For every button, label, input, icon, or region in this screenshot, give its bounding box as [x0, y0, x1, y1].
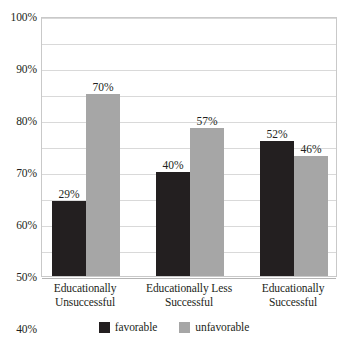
bar-unfavorable — [294, 156, 328, 276]
category-label-line: Educationally — [54, 282, 117, 296]
category-label: Educationally LessSuccessful — [146, 282, 232, 309]
bar-value-label: 29% — [59, 189, 80, 201]
category-label: EducationallySuccessful — [262, 282, 325, 309]
legend: favorableunfavorable — [0, 322, 348, 334]
y-axis-tick-label: 60% — [16, 220, 37, 232]
legend-item-favorable[interactable]: favorable — [99, 322, 158, 334]
bar-chart: 0%10%20%30%40%50%60%70%80%90%100% 29%70%… — [0, 0, 348, 344]
bar-value-label: 52% — [267, 129, 288, 141]
plot-area: 0%10%20%30%40%50%60%70%80%90%100% 29%70%… — [41, 17, 337, 277]
bar-value-label: 46% — [301, 144, 322, 156]
category-label-line: Successful — [146, 296, 232, 310]
bar-favorable — [52, 201, 86, 276]
legend-item-unfavorable[interactable]: unfavorable — [179, 322, 249, 334]
gridline: 0% — [42, 278, 336, 279]
category-label-line: Educationally Less — [146, 282, 232, 296]
legend-swatch-icon — [179, 322, 190, 333]
bar-unfavorable — [190, 128, 224, 276]
bars-layer: 29%70%40%57%52%46% — [42, 18, 336, 276]
legend-label: unfavorable — [195, 322, 249, 334]
category-label-line: Educationally — [262, 282, 325, 296]
category-label-line: Successful — [262, 296, 325, 310]
y-axis-tick-label: 70% — [16, 168, 37, 180]
legend-label: favorable — [115, 322, 158, 334]
bar-favorable — [260, 141, 294, 276]
bar-value-label: 70% — [93, 82, 114, 94]
bar-unfavorable — [86, 94, 120, 276]
y-axis-tick-label: 90% — [16, 64, 37, 76]
category-label-line: Unsuccessful — [54, 296, 117, 310]
bar-favorable — [156, 172, 190, 276]
bar-value-label: 40% — [163, 160, 184, 172]
y-axis-tick-label: 80% — [16, 116, 37, 128]
y-axis-tick-label: 50% — [16, 272, 37, 284]
category-label: EducationallyUnsuccessful — [54, 282, 117, 309]
bar-value-label: 57% — [197, 116, 218, 128]
legend-swatch-icon — [99, 322, 110, 333]
y-axis-tick-label: 100% — [11, 12, 37, 24]
